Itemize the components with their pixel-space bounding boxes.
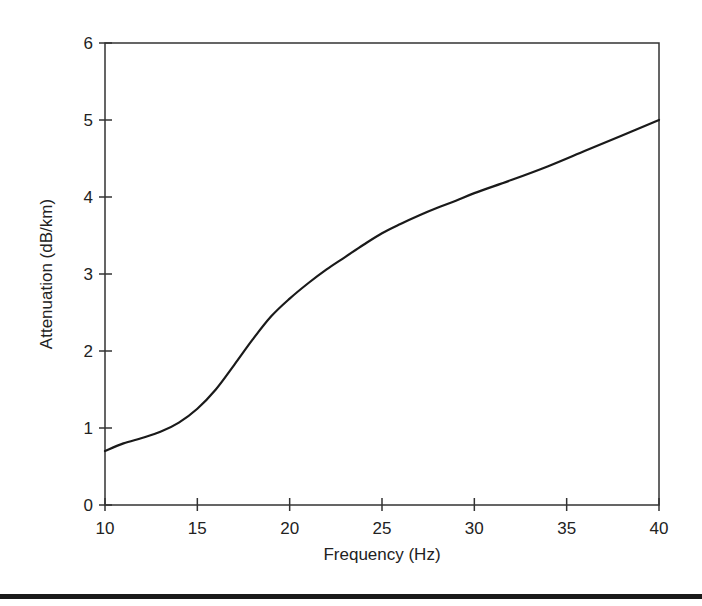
y-tick-label: 0	[84, 496, 93, 515]
attenuation-chart: 101520253035400123456 Frequency (Hz) Att…	[0, 0, 702, 606]
y-tick-label: 6	[84, 34, 93, 53]
y-tick-label: 5	[84, 111, 93, 130]
plot-frame	[105, 43, 659, 505]
y-tick-label: 2	[84, 342, 93, 361]
x-tick-label: 35	[557, 519, 576, 538]
x-tick-label: 25	[373, 519, 392, 538]
y-axis-title: Attenuation (dB/km)	[37, 199, 56, 349]
x-tick-label: 20	[280, 519, 299, 538]
axes	[105, 43, 659, 505]
y-tick-label: 4	[84, 188, 93, 207]
x-tick-label: 30	[465, 519, 484, 538]
x-tick-label: 10	[96, 519, 115, 538]
x-axis-title: Frequency (Hz)	[323, 545, 440, 564]
x-tick-label: 40	[650, 519, 669, 538]
x-tick-label: 15	[188, 519, 207, 538]
attenuation-curve	[105, 120, 659, 451]
bottom-divider	[0, 594, 702, 599]
y-tick-label: 1	[84, 419, 93, 438]
y-tick-label: 3	[84, 265, 93, 284]
ticks: 101520253035400123456	[84, 34, 669, 538]
